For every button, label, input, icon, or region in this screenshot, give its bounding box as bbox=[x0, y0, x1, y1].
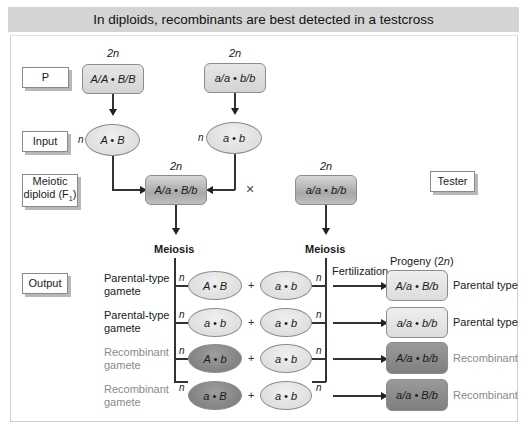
tester-gamete-trunk bbox=[325, 258, 327, 382]
fertilization-arrow-line bbox=[333, 395, 383, 397]
progeny-text: A/a • b/b bbox=[396, 352, 438, 364]
tester-gamete-text: a • b bbox=[275, 353, 297, 365]
fertilization-arrow-line bbox=[333, 322, 383, 324]
f1-gamete-trunk bbox=[174, 258, 176, 382]
tester-gamete-text: a • b bbox=[275, 390, 297, 402]
ploidy-n: n bbox=[316, 345, 322, 356]
plus-sign: + bbox=[248, 352, 254, 364]
progeny-box: a/a • b/b bbox=[386, 307, 448, 338]
f1-gamete-text: a • B bbox=[203, 390, 226, 402]
f1-text: A/a • B/b bbox=[155, 184, 198, 196]
f1-gamete-recombinant: A • b bbox=[188, 344, 242, 373]
arrow-f1-meiosis-line bbox=[175, 205, 177, 229]
ploidy-n: n bbox=[179, 309, 185, 320]
label-input-text: Input bbox=[33, 135, 57, 148]
ploidy-n: n bbox=[179, 345, 185, 356]
label-input: Input bbox=[22, 131, 68, 152]
branch-tester bbox=[312, 285, 326, 287]
label-p-text: P bbox=[42, 71, 49, 84]
ploidy-tester: 2n bbox=[320, 160, 332, 172]
ploidy-input-left: n bbox=[78, 134, 84, 145]
connector-input-left-down bbox=[112, 156, 114, 190]
progeny-type-label: Recombinant bbox=[453, 352, 518, 365]
connector-input-right-across bbox=[213, 189, 235, 191]
gamete-type-label: Parental-typegamete bbox=[104, 309, 170, 335]
arrow-p-left-line bbox=[112, 94, 114, 110]
parent-right-text: a/a • b/b bbox=[215, 72, 256, 84]
parent-left-genotype: A/A • B/B bbox=[82, 64, 144, 94]
meiosis-left-label: Meiosis bbox=[154, 243, 194, 255]
arrow-down-icon bbox=[172, 228, 180, 235]
label-tester-text: Tester bbox=[438, 175, 468, 188]
label-meiotic-diploid: Meioticdiploid (F1) bbox=[22, 174, 78, 207]
tester-gamete-text: a • b bbox=[275, 317, 297, 329]
tester-gamete: a • b bbox=[260, 271, 312, 300]
arrow-down-icon bbox=[109, 109, 117, 116]
f1-gamete: A • B bbox=[188, 271, 242, 300]
ploidy-n: n bbox=[179, 272, 185, 283]
ploidy-n: n bbox=[179, 382, 185, 393]
ploidy-f1: 2n bbox=[170, 160, 182, 172]
progeny-text: A/a • B/b bbox=[396, 280, 439, 292]
tester-gamete: a • b bbox=[260, 308, 312, 337]
f1-gamete: a • b bbox=[188, 308, 242, 337]
figure-title: In diploids, recombinants are best detec… bbox=[8, 7, 519, 32]
tester-gamete: a • b bbox=[260, 344, 312, 373]
ploidy-n: n bbox=[316, 272, 322, 283]
arrow-left-icon bbox=[206, 186, 213, 194]
progeny-box-recombinant: A/a • b/b bbox=[386, 342, 448, 374]
branch-f1 bbox=[174, 358, 188, 360]
arrow-down-icon bbox=[231, 108, 239, 115]
arrow-tester-meiosis-line bbox=[325, 205, 327, 229]
tester-text: a/a • b/b bbox=[306, 184, 347, 196]
branch-f1 bbox=[174, 322, 188, 324]
input-right-text: a • b bbox=[223, 132, 245, 144]
branch-tester bbox=[312, 322, 326, 324]
gamete-type-label: Recombinantgamete bbox=[104, 383, 170, 409]
fertilization-arrow-line bbox=[333, 285, 383, 287]
arrow-p-right-line bbox=[234, 93, 236, 109]
progeny-type-label: Parental type bbox=[453, 316, 518, 329]
branch-f1 bbox=[174, 285, 188, 287]
arrow-down-icon bbox=[322, 228, 330, 235]
progeny-type-label: Parental type bbox=[453, 279, 518, 292]
ploidy-n: n bbox=[316, 309, 322, 320]
branch-tester bbox=[312, 358, 326, 360]
ploidy-n: n bbox=[316, 382, 322, 393]
label-output-text: Output bbox=[28, 277, 61, 290]
tester-gamete-text: a • b bbox=[275, 280, 297, 292]
meiosis-right-label: Meiosis bbox=[305, 243, 345, 255]
input-left-gamete: A • B bbox=[85, 124, 140, 156]
tester-genotype: a/a • b/b bbox=[295, 175, 357, 205]
ploidy-parent-left: 2n bbox=[107, 47, 119, 59]
fertilization-label: Fertilization bbox=[332, 265, 388, 278]
progeny-type-label: Recombinant bbox=[453, 389, 518, 402]
figure-title-text: In diploids, recombinants are best detec… bbox=[93, 12, 434, 27]
parent-left-text: A/A • B/B bbox=[90, 73, 135, 85]
connector-input-left-across bbox=[112, 189, 142, 191]
progeny-box-recombinant: a/a • B/b bbox=[386, 379, 448, 411]
f1-gamete-text: A • B bbox=[203, 280, 227, 292]
label-tester: Tester bbox=[430, 171, 475, 192]
gamete-type-label: Recombinantgamete bbox=[104, 346, 170, 372]
fertilization-arrow-line bbox=[333, 358, 383, 360]
f1-gamete-text: A • b bbox=[203, 353, 226, 365]
cross-symbol: × bbox=[246, 181, 254, 197]
input-right-gamete: a • b bbox=[206, 122, 262, 154]
f1-genotype: A/a • B/b bbox=[145, 175, 207, 205]
parent-right-genotype: a/a • b/b bbox=[204, 63, 266, 93]
plus-sign: + bbox=[248, 389, 254, 401]
f1-gamete-recombinant: a • B bbox=[188, 381, 242, 410]
progeny-text: a/a • B/b bbox=[396, 389, 438, 401]
progeny-text: a/a • b/b bbox=[397, 317, 438, 329]
gamete-type-label: Parental-typegamete bbox=[104, 272, 170, 298]
label-output: Output bbox=[22, 273, 68, 294]
progeny-header: Progeny (2n) bbox=[390, 255, 454, 268]
plus-sign: + bbox=[248, 316, 254, 328]
label-p: P bbox=[22, 67, 69, 88]
connector-input-right-down bbox=[234, 154, 236, 190]
ploidy-parent-right: 2n bbox=[229, 47, 241, 59]
label-meiotic-diploid-text: Meioticdiploid (F1) bbox=[24, 175, 77, 205]
progeny-box: A/a • B/b bbox=[386, 270, 448, 301]
f1-gamete-text: a • b bbox=[204, 317, 226, 329]
